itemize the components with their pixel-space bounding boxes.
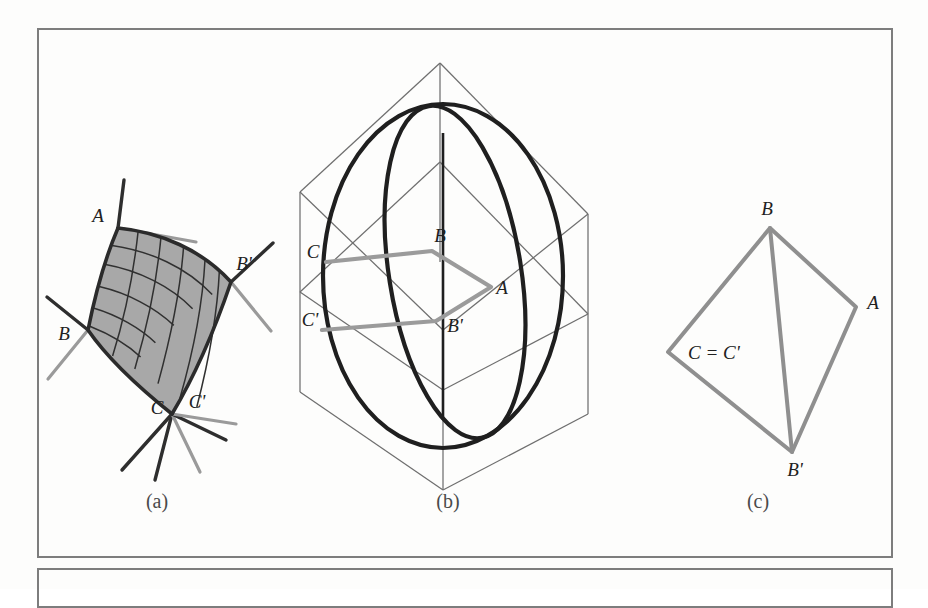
path-C-B-A-Bprime-Cprime xyxy=(322,251,491,330)
caption-c: (c) xyxy=(728,490,788,513)
quad-diagonal-B-Bprime xyxy=(770,228,792,452)
cube-midplane-1 xyxy=(300,292,443,390)
great-circle-inner xyxy=(364,96,547,449)
panel-c-label-B: B xyxy=(761,198,773,219)
panel-a-label-A: A xyxy=(90,205,104,226)
panel-a-label-C: C xyxy=(151,397,164,418)
panel-c-label-C-equals-Cprime: C = C' xyxy=(688,342,741,363)
lower-frame-box xyxy=(37,568,893,608)
cube-edge-top-1 xyxy=(300,63,440,192)
panel-a-label-Cprime: C' xyxy=(189,391,207,412)
cube-midplane-2 xyxy=(443,314,588,390)
panel-c-label-A: A xyxy=(865,292,879,313)
caption-b: (b) xyxy=(418,490,478,513)
panel-b-label-A: A xyxy=(494,277,508,298)
panel-c-label-Bprime: B' xyxy=(787,459,804,480)
panel-b-cube-great-circles: C B A B' C' xyxy=(285,50,615,510)
quad-outline xyxy=(668,228,856,452)
ray-bprime-down xyxy=(231,282,271,331)
ray-a-up xyxy=(118,180,124,228)
cube-edge-bot-2 xyxy=(443,414,588,490)
cube-edge-bot-1 xyxy=(300,392,443,490)
panel-a-label-Bprime: B' xyxy=(236,253,253,274)
panel-c-quadrilateral: B A B' C = C' xyxy=(630,195,890,485)
panel-b-label-C: C xyxy=(307,241,320,262)
panel-b-label-B: B xyxy=(434,225,446,246)
caption-a: (a) xyxy=(127,490,187,513)
panel-a-label-B: B xyxy=(58,323,70,344)
panel-b-label-Cprime: C' xyxy=(302,309,320,330)
ray-c-3 xyxy=(172,414,200,472)
panel-b-label-Bprime: B' xyxy=(447,315,464,336)
panel-a-surface-patch: A B B' C C' xyxy=(20,150,300,510)
